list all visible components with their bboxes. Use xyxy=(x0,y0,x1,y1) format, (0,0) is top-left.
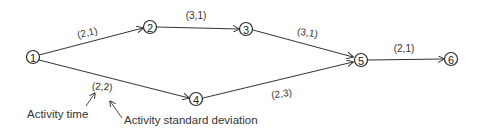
edge-1-4 xyxy=(39,60,189,98)
svg-text:4: 4 xyxy=(193,94,199,106)
edge-label-1-2: (2,1) xyxy=(76,25,99,40)
svg-text:2: 2 xyxy=(147,22,153,34)
node-3: 3 xyxy=(240,23,253,36)
activity-std-dev-pointer xyxy=(110,101,122,118)
svg-text:1: 1 xyxy=(30,52,36,64)
node-5: 5 xyxy=(355,54,368,67)
edge-label-1-4: (2,2) xyxy=(92,80,113,92)
edge-label-4-5: (2,3) xyxy=(271,87,293,101)
network-diagram: (2,1) (3,1) (3,1) (2,2) (2,3) (2,1) 1 2 … xyxy=(0,0,480,134)
node-6: 6 xyxy=(445,53,458,66)
node-2: 2 xyxy=(144,21,157,34)
svg-text:5: 5 xyxy=(358,55,364,67)
activity-time-pointer xyxy=(86,93,95,106)
activity-std-dev-annotation: Activity standard deviation xyxy=(124,114,258,126)
activity-time-annotation: Activity time xyxy=(27,108,88,120)
edge-5-6 xyxy=(368,59,444,60)
edge-2-3 xyxy=(157,27,239,29)
edge-label-5-6: (2,1) xyxy=(394,43,415,54)
svg-text:6: 6 xyxy=(448,54,454,66)
svg-text:3: 3 xyxy=(243,24,249,36)
edge-label-2-3: (3,1) xyxy=(186,10,207,21)
node-4: 4 xyxy=(190,93,203,106)
edge-label-3-5: (3,1) xyxy=(297,26,319,40)
node-1: 1 xyxy=(27,51,40,64)
